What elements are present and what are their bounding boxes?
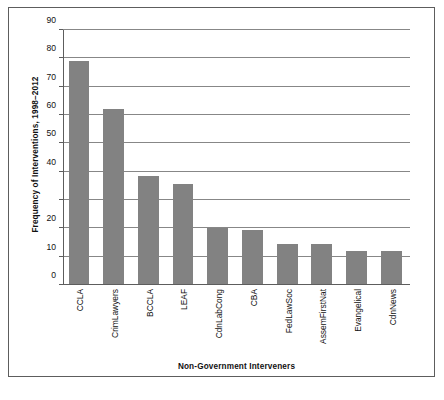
bar (381, 251, 402, 285)
y-tick-label: 80 (46, 43, 56, 53)
bar (207, 228, 228, 285)
y-tick-label: 60 (46, 100, 56, 110)
bar (346, 251, 367, 285)
x-label-slot: AssemFirstNat (306, 287, 341, 363)
x-tick-label: CrimLawyers (110, 289, 120, 338)
x-label-slot: Evangelical (341, 287, 376, 363)
x-axis-line (63, 284, 410, 285)
bar-slot (375, 30, 410, 285)
y-axis-line (63, 30, 64, 285)
x-axis-title: Non-Government Interveners (63, 362, 410, 371)
x-label-slot: FedLawSoc (271, 287, 306, 363)
x-label-slot: CrimLawyers (98, 287, 133, 363)
x-tick-label: Evangelical (353, 289, 363, 332)
y-tick-label: 70 (46, 72, 56, 82)
x-tick-label: BCCLA (145, 289, 155, 317)
x-tick-label: LEAF (179, 289, 189, 310)
bar (103, 109, 124, 285)
bar-slot (341, 30, 376, 285)
bar (173, 184, 194, 285)
x-tick-label: CdnLabCong (214, 289, 224, 338)
x-tick-label: FedLawSoc (284, 289, 294, 333)
bar (138, 176, 159, 285)
bar-slot (132, 30, 167, 285)
bar (277, 244, 298, 285)
y-tick-label: 0 (51, 270, 56, 280)
bar-slot (237, 30, 272, 285)
x-label-slot: LEAF (167, 287, 202, 363)
x-tick-label: CBA (249, 289, 259, 306)
bar-slot (202, 30, 237, 285)
bars-group (63, 30, 410, 285)
bar-slot (63, 30, 98, 285)
chart-figure: Frequency of Interventions, 1998–2012 01… (0, 0, 444, 400)
y-tick-label: 90 (46, 15, 56, 25)
x-label-slot: CCLA (63, 287, 98, 363)
bar-slot (167, 30, 202, 285)
y-axis-title: Frequency of Interventions, 1998–2012 (31, 50, 40, 260)
x-label-slot: CBA (237, 287, 272, 363)
x-tick-label: CdnNews (388, 289, 398, 325)
bar (69, 61, 90, 285)
x-label-slot: CdnLabCong (202, 287, 237, 363)
y-tick-label: 10 (46, 242, 56, 252)
y-tick-label: 20 (46, 213, 56, 223)
bar (242, 230, 263, 285)
x-axis-labels-group: CCLACrimLawyersBCCLALEAFCdnLabCongCBAFed… (63, 287, 410, 363)
y-tick-label: 40 (46, 157, 56, 167)
bar-slot (271, 30, 306, 285)
x-label-slot: BCCLA (132, 287, 167, 363)
x-label-slot: CdnNews (375, 287, 410, 363)
plot-area: 01020405060708090 (63, 30, 410, 285)
bar-slot (306, 30, 341, 285)
bar (311, 244, 332, 285)
y-tick-label: 50 (46, 128, 56, 138)
x-tick-label: CCLA (75, 289, 85, 311)
x-tick-label: AssemFirstNat (318, 289, 328, 344)
bar-slot (98, 30, 133, 285)
